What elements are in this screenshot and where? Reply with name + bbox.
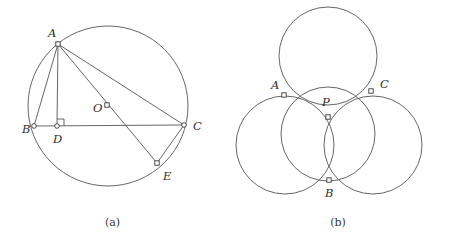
- figure-a-point-label-a: A: [47, 26, 56, 40]
- circle-right: [324, 96, 422, 194]
- caption-figure-b: (b): [225, 216, 451, 229]
- figure-a-point-marker-b: [32, 124, 37, 129]
- figure-b-point-label-a: A: [270, 78, 279, 92]
- figure-b-point-marker-p: [326, 115, 330, 119]
- circle-top: [279, 7, 377, 105]
- figure-a-point-marker-d: [55, 124, 60, 129]
- figure-b-point-marker-c: [369, 89, 373, 93]
- figure-a-point-label-b: B: [21, 122, 30, 136]
- segment-AB: [34, 44, 58, 126]
- segment-AD: [57, 44, 58, 126]
- figure-page: ABCDEO (a) ACPB (b): [0, 0, 451, 247]
- figure-a-point-marker-a: [56, 42, 60, 46]
- figure-a-canvas: ABCDEO: [0, 0, 225, 210]
- figure-b-point-label-p: P: [321, 95, 330, 109]
- figure-panel-b: ACPB (b): [225, 0, 451, 247]
- figure-a-point-label-o: O: [93, 101, 103, 115]
- figure-b-canvas: ACPB: [225, 0, 451, 210]
- figure-b-point-label-c: C: [380, 77, 389, 91]
- figure-b-point-marker-b: [327, 178, 331, 182]
- figure-a-point-marker-c: [182, 123, 187, 128]
- figure-b-point-marker-a: [282, 93, 286, 97]
- circle-left: [236, 96, 334, 194]
- figure-a-point-marker-o: [105, 103, 109, 107]
- figure-a-point-marker-e: [155, 161, 159, 165]
- figure-a-point-label-c: C: [193, 119, 202, 133]
- figure-a-point-label-e: E: [162, 169, 172, 183]
- figure-b-point-label-b: B: [324, 186, 333, 200]
- segment-CE: [157, 125, 184, 163]
- figure-a-point-markers: [32, 42, 187, 165]
- figure-panel-a: ABCDEO (a): [0, 0, 225, 247]
- figure-a-point-label-d: D: [52, 132, 62, 146]
- segment-AC: [58, 44, 184, 125]
- caption-figure-a: (a): [0, 216, 225, 229]
